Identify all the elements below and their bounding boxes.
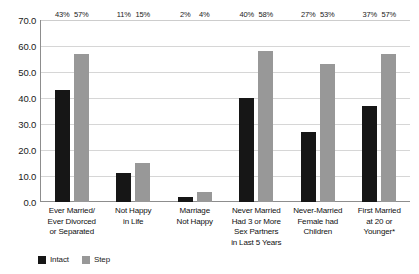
legend-item-step[interactable]: Step (82, 255, 110, 264)
bar-value-label: 58% (258, 10, 273, 19)
y-axis-tick-label: 70.0 (18, 15, 36, 26)
bar-value-label: 53% (320, 10, 335, 19)
bar-column: 57% (381, 20, 396, 202)
x-axis-label-line: Female had (288, 217, 348, 228)
bar-column: 57% (74, 20, 89, 202)
y-axis-tick-label: 20.0 (18, 145, 36, 156)
bar-column: 11% (116, 20, 131, 202)
x-axis-category-labels: Ever Married/Ever Divorcedor SeparatedNo… (41, 206, 410, 248)
bar-column: 43% (55, 20, 70, 202)
bar-intact: 27% (301, 132, 316, 202)
bar-column: 4% (197, 20, 212, 202)
y-axis-tick-labels: 0.010.020.030.040.050.060.070.0 (0, 20, 36, 202)
x-axis-label-line: in Last 5 Years (227, 238, 287, 249)
x-axis-label-line: Not Happy (104, 206, 164, 217)
x-axis-category-label: Never MarriedHad 3 or MoreSex Partnersin… (226, 206, 288, 248)
bar-intact: 40% (239, 98, 254, 202)
x-axis-label-line: Marriage (165, 206, 225, 217)
y-axis-tick-label: 50.0 (18, 67, 36, 78)
bar-step: 15% (135, 163, 150, 202)
bar-step: 53% (320, 64, 335, 202)
legend-swatch-icon (38, 256, 46, 264)
bar-intact: 37% (362, 106, 377, 202)
x-axis-label-line: Ever Married/ (42, 206, 102, 217)
bar-value-label: 4% (199, 10, 210, 19)
x-axis-label-line: Sex Partners (227, 227, 287, 238)
legend-item-intact[interactable]: Intact (38, 255, 69, 264)
legend-label: Intact (50, 255, 69, 264)
x-axis-label-line: at 20 or (350, 217, 410, 228)
bar-value-label: 2% (180, 10, 191, 19)
bar-group: 37%57% (349, 20, 411, 202)
y-axis-tick-label: 30.0 (18, 119, 36, 130)
chart-legend: IntactStep (38, 255, 110, 264)
bar-intact: 43% (55, 90, 70, 202)
y-axis-tick-label: 10.0 (18, 171, 36, 182)
x-axis-label-line: First Married (350, 206, 410, 217)
y-axis-tick-label: 60.0 (18, 41, 36, 52)
x-axis-label-line: Younger* (350, 227, 410, 238)
bar-value-label: 37% (362, 10, 377, 19)
bar-column: 27% (301, 20, 316, 202)
bar-step: 58% (258, 51, 273, 202)
bar-group: 2%4% (164, 20, 226, 202)
bar-chart: 0.010.020.030.040.050.060.070.0 43%57%11… (0, 0, 419, 274)
bar-step: 4% (197, 192, 212, 202)
x-axis-label-line: Never Married (227, 206, 287, 217)
x-axis-label-line: Not Happy (165, 217, 225, 228)
x-axis-label-line: Never-Married (288, 206, 348, 217)
bar-value-label: 40% (239, 10, 254, 19)
x-axis-category-label: Never-MarriedFemale hadChildren (287, 206, 349, 248)
bar-value-label: 27% (301, 10, 316, 19)
legend-swatch-icon (82, 256, 90, 264)
bar-value-label: 43% (55, 10, 70, 19)
bar-value-label: 57% (381, 10, 396, 19)
bar-value-label: 11% (117, 10, 131, 19)
x-axis-label-line: or Separated (42, 227, 102, 238)
bar-group: 43%57% (41, 20, 103, 202)
bar-intact: 2% (178, 197, 193, 202)
x-axis-category-label: Ever Married/Ever Divorcedor Separated (41, 206, 103, 248)
x-axis-label-line: Ever Divorced (42, 217, 102, 228)
x-axis-category-label: First Marriedat 20 orYounger* (349, 206, 411, 248)
bar-column: 2% (178, 20, 193, 202)
bar-value-label: 15% (135, 10, 150, 19)
x-axis-category-label: MarriageNot Happy (164, 206, 226, 248)
bar-group: 11%15% (103, 20, 165, 202)
x-axis-category-label: Not Happyin Life (103, 206, 165, 248)
bar-step: 57% (74, 54, 89, 202)
x-axis-label-line: Children (288, 227, 348, 238)
bar-column: 58% (258, 20, 273, 202)
legend-label: Step (94, 255, 110, 264)
y-axis-tick-label: 0.0 (23, 197, 36, 208)
bar-column: 15% (135, 20, 150, 202)
bar-groups: 43%57%11%15%2%4%40%58%27%53%37%57% (41, 20, 410, 202)
bar-column: 40% (239, 20, 254, 202)
bar-column: 53% (320, 20, 335, 202)
bar-step: 57% (381, 54, 396, 202)
bar-column: 37% (362, 20, 377, 202)
x-axis-label-line: Had 3 or More (227, 217, 287, 228)
y-axis-tick-label: 40.0 (18, 93, 36, 104)
bar-value-label: 57% (74, 10, 89, 19)
x-axis-label-line: in Life (104, 217, 164, 228)
bar-intact: 11% (116, 173, 131, 202)
bar-group: 27%53% (287, 20, 349, 202)
bar-group: 40%58% (226, 20, 288, 202)
